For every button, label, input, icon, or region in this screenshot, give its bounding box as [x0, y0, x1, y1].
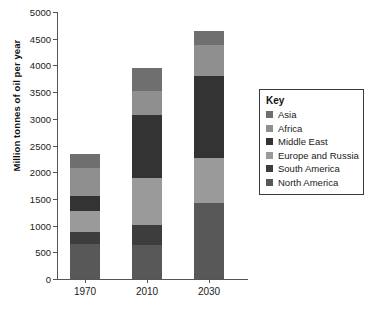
bar-stack [194, 31, 224, 279]
legend-item-label: North America [278, 177, 338, 188]
legend-item-label: South America [278, 163, 340, 174]
x-tick-mark [147, 279, 148, 283]
x-tick-label: 1970 [74, 286, 96, 297]
y-tick-mark [53, 65, 57, 66]
legend-item: Asia [266, 109, 357, 120]
bar-segment [194, 203, 224, 279]
bar-stack [70, 154, 100, 279]
legend-item: North America [266, 177, 357, 188]
legend-item: South America [266, 163, 357, 174]
legend-item-label: Europe and Russia [278, 150, 359, 161]
x-tick-mark [209, 279, 210, 283]
y-axis-title: Million tonnes of oil per year [11, 16, 22, 196]
bar-segment [132, 91, 162, 115]
y-tick-mark [53, 279, 57, 280]
legend-swatch-icon [266, 125, 273, 132]
legend-item: Middle East [266, 136, 357, 147]
x-tick-label: 2010 [136, 286, 158, 297]
x-tick-label: 2030 [198, 286, 220, 297]
bar-segment [132, 178, 162, 224]
chart-figure: Million tonnes of oil per year 050010001… [0, 0, 370, 320]
y-tick-label: 4000 [30, 60, 51, 71]
bar-stack [132, 68, 162, 279]
y-tick-mark [53, 12, 57, 13]
y-axis-line [57, 12, 58, 280]
bar-segment [132, 225, 162, 245]
bar-segment [194, 158, 224, 202]
bar-segment [132, 245, 162, 279]
plot-area: 0500100015002000250030003500400045005000… [57, 12, 247, 279]
y-tick-mark [53, 92, 57, 93]
legend-swatch-icon [266, 165, 273, 172]
y-tick-label: 3500 [30, 87, 51, 98]
bar-segment [132, 68, 162, 91]
y-tick-label: 0 [46, 274, 51, 285]
bar-segment [70, 232, 100, 244]
y-tick-mark [53, 146, 57, 147]
y-tick-label: 2000 [30, 167, 51, 178]
legend-swatch-icon [266, 138, 273, 145]
legend-swatch-icon [266, 111, 273, 118]
bar-segment [70, 244, 100, 279]
bar-segment [70, 211, 100, 232]
legend-swatch-icon [266, 152, 273, 159]
stacked-bar [132, 68, 162, 279]
y-tick-label: 1500 [30, 193, 51, 204]
y-tick-mark [53, 39, 57, 40]
bar-segment [132, 115, 162, 178]
y-tick-label: 3000 [30, 113, 51, 124]
y-tick-mark [53, 172, 57, 173]
legend-item: Africa [266, 123, 357, 134]
y-tick-label: 1000 [30, 220, 51, 231]
legend-item-label: Africa [278, 123, 302, 134]
legend-item: Europe and Russia [266, 150, 357, 161]
bar-segment [194, 45, 224, 76]
legend-item-label: Middle East [278, 136, 328, 147]
y-tick-mark [53, 119, 57, 120]
stacked-bar [70, 154, 100, 279]
y-tick-label: 5000 [30, 7, 51, 18]
y-tick-mark [53, 226, 57, 227]
legend-swatch-icon [266, 179, 273, 186]
legend-title: Key [266, 95, 357, 106]
y-tick-label: 500 [35, 247, 51, 258]
legend-box: Key AsiaAfricaMiddle EastEurope and Russ… [259, 89, 364, 195]
bar-segment [194, 31, 224, 44]
bar-segment [70, 168, 100, 196]
y-tick-mark [53, 252, 57, 253]
bar-segment [70, 154, 100, 168]
legend-item-label: Asia [278, 109, 296, 120]
x-tick-mark [85, 279, 86, 283]
legend-items: AsiaAfricaMiddle EastEurope and RussiaSo… [266, 109, 357, 188]
y-tick-mark [53, 199, 57, 200]
bar-segment [70, 196, 100, 210]
y-tick-label: 4500 [30, 33, 51, 44]
bar-segment [194, 76, 224, 159]
clipped-title-text [12, 0, 232, 2]
y-tick-label: 2500 [30, 140, 51, 151]
stacked-bar [194, 31, 224, 279]
